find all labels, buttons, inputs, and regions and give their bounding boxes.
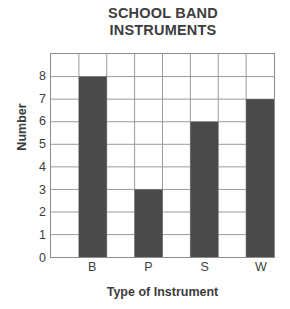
chart-title-line-1: SCHOOL BAND xyxy=(50,5,276,22)
y-tick-label: 0 xyxy=(39,252,46,265)
plot-area xyxy=(50,53,275,258)
bar-S[interactable] xyxy=(190,122,218,257)
bar-P[interactable] xyxy=(135,189,163,257)
x-tick-label-W: W xyxy=(255,261,267,274)
y-tick-label: 3 xyxy=(39,183,46,196)
y-tick-label: 2 xyxy=(39,206,46,219)
chart-title-line-2: INSTRUMENTS xyxy=(50,22,276,39)
x-axis-tick-labels: BPSW xyxy=(50,261,275,279)
y-axis-tick-labels: 012345678 xyxy=(26,53,46,258)
y-tick-label: 1 xyxy=(39,229,46,242)
y-tick-label: 8 xyxy=(39,70,46,83)
y-tick-label: 7 xyxy=(39,92,46,105)
chart-title: SCHOOL BAND INSTRUMENTS xyxy=(50,5,276,39)
bar-W[interactable] xyxy=(246,99,274,257)
y-tick-label: 6 xyxy=(39,115,46,128)
y-tick-label: 5 xyxy=(39,138,46,151)
bar-chart-figure: SCHOOL BAND INSTRUMENTS Number 012345678… xyxy=(0,0,290,309)
x-tick-label-P: P xyxy=(144,261,152,274)
x-tick-label-S: S xyxy=(201,261,209,274)
x-tick-label-B: B xyxy=(88,261,96,274)
y-tick-label: 4 xyxy=(39,161,46,174)
bars-group xyxy=(51,54,274,257)
bar-B[interactable] xyxy=(79,77,107,258)
x-axis-title: Type of Instrument xyxy=(50,285,275,299)
